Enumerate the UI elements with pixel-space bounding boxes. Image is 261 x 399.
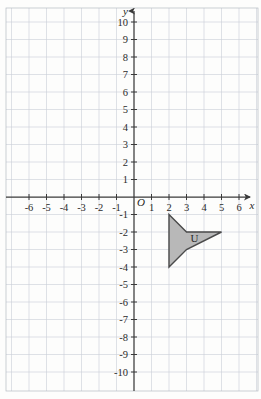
x-tick-label: 3 — [184, 202, 189, 213]
x-tick-label: 5 — [219, 202, 224, 213]
x-tick-label: -6 — [25, 202, 34, 213]
y-tick-label: -8 — [119, 332, 128, 343]
coordinate-plane-figure: -6 -5 -4 -3 -2 -1 1 2 3 4 5 6 10 9 8 7 6… — [0, 0, 261, 399]
x-tick-label: -2 — [95, 202, 104, 213]
x-tick-label: 2 — [166, 202, 171, 213]
y-tick-label: -3 — [119, 244, 128, 255]
y-tick-label: 2 — [123, 157, 128, 168]
y-tick-label: -9 — [119, 349, 128, 360]
plot-canvas: -6 -5 -4 -3 -2 -1 1 2 3 4 5 6 10 9 8 7 6… — [0, 0, 261, 399]
origin-label: O — [137, 196, 145, 208]
x-tick-label: 6 — [236, 202, 241, 213]
y-tick-label: -4 — [119, 262, 128, 273]
y-tick-label: -10 — [114, 367, 128, 378]
x-axis-label: x — [249, 199, 255, 211]
x-tick-label: 1 — [149, 202, 154, 213]
x-tick-label: 4 — [201, 202, 207, 213]
y-axis-label: y — [122, 5, 128, 17]
y-tick-label: 10 — [118, 17, 129, 28]
y-tick-label: -1 — [119, 209, 128, 220]
y-tick-label: 1 — [123, 174, 128, 185]
x-tick-label: -4 — [60, 202, 69, 213]
y-tick-label: -7 — [119, 314, 128, 325]
y-tick-label: 4 — [123, 122, 129, 133]
x-tick-label: -5 — [42, 202, 51, 213]
shape-u-label: U — [190, 232, 198, 244]
y-tick-label: 3 — [123, 139, 128, 150]
x-tick-label: -3 — [77, 202, 86, 213]
y-tick-label: 6 — [123, 87, 128, 98]
y-tick-label: 8 — [123, 52, 128, 63]
y-tick-label: -2 — [119, 227, 128, 238]
y-tick-label: 9 — [123, 34, 128, 45]
y-tick-label: -5 — [119, 279, 128, 290]
y-tick-label: -6 — [119, 297, 128, 308]
y-tick-label: 5 — [123, 104, 128, 115]
y-tick-label: 7 — [123, 69, 128, 80]
